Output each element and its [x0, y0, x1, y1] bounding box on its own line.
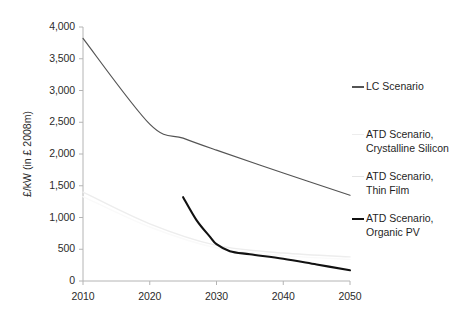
y-tick-label: 1,500 [27, 179, 75, 191]
legend-swatch-icon [352, 218, 364, 220]
y-tick-label: 500 [27, 242, 75, 254]
legend-entry[interactable]: LC Scenario [352, 80, 424, 94]
legend-entry[interactable]: ATD Scenario, Crystalline Silicon [352, 128, 449, 155]
legend-entry[interactable]: ATD Scenario, Organic PV [352, 212, 434, 239]
series-line [83, 197, 350, 260]
y-tick-marks [79, 27, 83, 281]
series-line [83, 192, 350, 257]
legend-swatch-icon [352, 176, 364, 177]
series-line [83, 38, 350, 195]
y-tick-label: 3,500 [27, 52, 75, 64]
y-axis-title: £/kW (in £ 2008m) [21, 89, 33, 219]
legend-label: ATD Scenario, Crystalline Silicon [366, 128, 449, 155]
y-tick-label: 0 [27, 274, 75, 286]
plot-area [0, 0, 472, 321]
legend-label: LC Scenario [366, 80, 424, 94]
line-chart: 4,0003,5003,0002,5002,0001,5001,0005000 … [0, 0, 472, 321]
x-tick-label: 2030 [195, 290, 239, 302]
series-line [183, 197, 350, 270]
y-tick-label: 2,000 [27, 147, 75, 159]
legend-swatch-icon [352, 134, 364, 135]
legend-label: ATD Scenario, Thin Film [366, 170, 434, 197]
series-lines [83, 38, 350, 270]
legend-swatch-icon [352, 86, 364, 88]
legend-label: ATD Scenario, Organic PV [366, 212, 434, 239]
x-tick-label: 2010 [61, 290, 105, 302]
legend-entry[interactable]: ATD Scenario, Thin Film [352, 170, 434, 197]
y-tick-label: 4,000 [27, 20, 75, 32]
x-tick-label: 2050 [328, 290, 372, 302]
y-tick-label: 1,000 [27, 211, 75, 223]
x-tick-label: 2020 [128, 290, 172, 302]
x-tick-marks [83, 281, 350, 285]
x-tick-label: 2040 [261, 290, 305, 302]
y-tick-label: 2,500 [27, 115, 75, 127]
y-tick-label: 3,000 [27, 84, 75, 96]
